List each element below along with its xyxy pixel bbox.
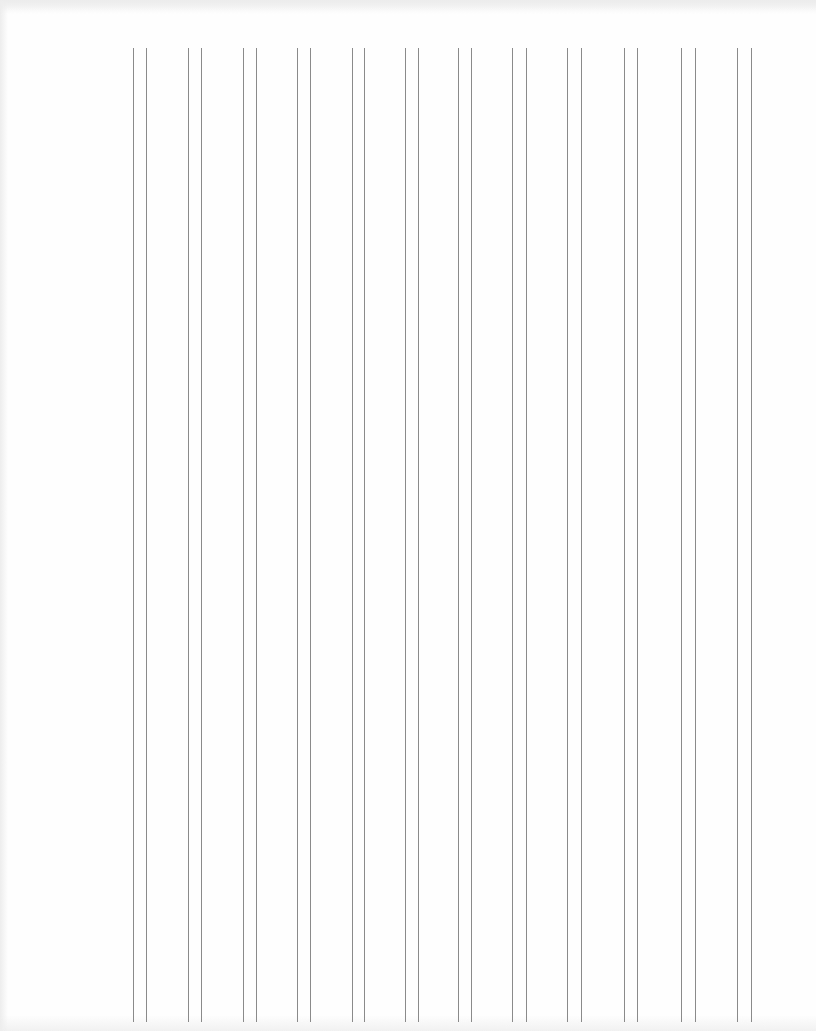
column-10-rule-left <box>624 48 625 1022</box>
column-10-rule-right <box>637 48 638 1022</box>
column-3-rule-right <box>256 48 257 1022</box>
column-9-rule-left <box>567 48 568 1022</box>
column-6-rule-right <box>418 48 419 1022</box>
column-2-rule-right <box>201 48 202 1022</box>
column-12-rule-right <box>751 48 752 1022</box>
column-7-rule-right <box>471 48 472 1022</box>
scan-edge-top <box>0 0 816 14</box>
column-4-rule-left <box>297 48 298 1022</box>
column-12-rule-left <box>737 48 738 1022</box>
column-6-rule-left <box>405 48 406 1022</box>
ruled-page <box>0 0 816 1031</box>
column-5-rule-right <box>364 48 365 1022</box>
column-1-rule-right <box>146 48 147 1022</box>
column-4-rule-right <box>310 48 311 1022</box>
scan-edge-left <box>0 0 8 1031</box>
column-7-rule-left <box>458 48 459 1022</box>
column-11-rule-left <box>681 48 682 1022</box>
column-5-rule-left <box>352 48 353 1022</box>
column-3-rule-left <box>243 48 244 1022</box>
column-2-rule-left <box>188 48 189 1022</box>
column-9-rule-right <box>581 48 582 1022</box>
column-8-rule-right <box>526 48 527 1022</box>
column-1-rule-left <box>133 48 134 1022</box>
column-11-rule-right <box>695 48 696 1022</box>
column-8-rule-left <box>512 48 513 1022</box>
